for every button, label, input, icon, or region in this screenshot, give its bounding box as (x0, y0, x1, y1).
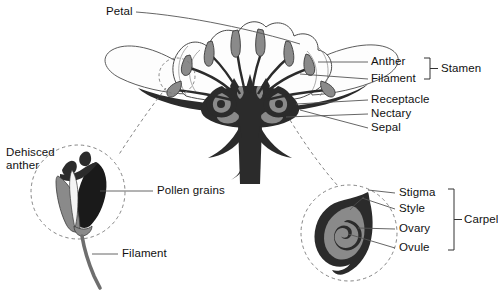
leader-nectary (286, 114, 368, 117)
label-inset-filament: Filament (122, 247, 167, 260)
stem-flare-right (258, 126, 292, 158)
label-receptacle: Receptacle (371, 93, 430, 106)
carpel-inset-drawing (314, 192, 372, 275)
anther-lobe-upper-mid (79, 152, 91, 167)
receptacle-group (138, 84, 368, 184)
label-filament: Filament (371, 72, 416, 85)
stamen-bracket (424, 58, 438, 79)
label-sepal: Sepal (371, 121, 401, 134)
figure-root: Petal Anther Filament Stamen Receptacle … (0, 0, 498, 293)
inset-filament-stalk (82, 236, 100, 288)
label-stigma: Stigma (399, 186, 435, 199)
dehisced-anther-drawing (56, 152, 107, 288)
stem-flare-left (208, 126, 242, 158)
label-ovule: Ovule (399, 241, 430, 254)
carpel-right-ovule (275, 100, 283, 108)
label-ovary: Ovary (399, 222, 430, 235)
carpel-left-ovule (217, 100, 225, 108)
leader-sepal (300, 110, 368, 128)
dashed-connector-right (290, 120, 338, 186)
label-carpel: Carpel (464, 213, 498, 226)
label-anther: Anther (371, 55, 405, 68)
label-dehisced-anther-line2: anther (6, 159, 39, 172)
label-style: Style (399, 202, 425, 215)
stem-body (238, 124, 262, 184)
leader-stigma (368, 190, 395, 193)
label-dehisced-anther-line1: Dehisced (6, 146, 55, 159)
carpel-bracket (448, 189, 462, 250)
label-stamen: Stamen (441, 62, 481, 75)
anther-3 (231, 30, 240, 57)
label-pollen-grains: Pollen grains (157, 184, 225, 197)
label-nectary: Nectary (371, 107, 411, 120)
label-petal: Petal (106, 5, 133, 18)
